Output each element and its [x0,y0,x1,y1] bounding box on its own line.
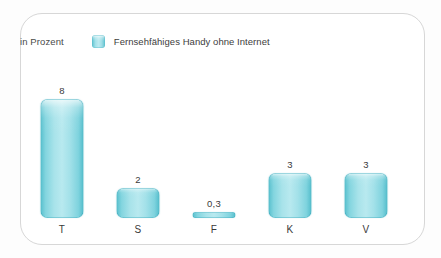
bar-group-1: 2 S [104,70,172,235]
bar-value-label: 3 [332,159,400,170]
bar-value-label: 0,3 [180,198,248,209]
bar-group-3: 3 K [256,70,324,235]
category-label: T [28,224,96,235]
legend-swatch-icon [92,35,105,48]
bar-group-0: 8 T [28,70,96,235]
bar-group-4: 3 V [332,70,400,235]
unit-label: in Prozent [20,36,64,47]
bar-group-2: 0,3 F [180,70,248,235]
bar-value-label: 8 [28,85,96,96]
legend-label: Fernsehfähiges Handy ohne Internet [114,36,270,47]
bar-rect[interactable] [269,173,312,218]
bar-value-label: 3 [256,159,324,170]
legend: Fernsehfähiges Handy ohne Internet [92,35,270,48]
bar-rect[interactable] [193,212,236,218]
bar-rect[interactable] [41,99,84,218]
bar-rect[interactable] [117,188,160,218]
category-label: V [332,224,400,235]
category-label: K [256,224,324,235]
plot-area: 8 T 2 S 0,3 F 3 K 3 V [28,70,418,235]
chart-header: in Prozent Fernsehfähiges Handy ohne Int… [20,30,350,52]
bar-rect[interactable] [345,173,388,218]
chart-container: in Prozent Fernsehfähiges Handy ohne Int… [0,0,441,258]
category-label: S [104,224,172,235]
category-label: F [180,224,248,235]
bar-value-label: 2 [104,174,172,185]
